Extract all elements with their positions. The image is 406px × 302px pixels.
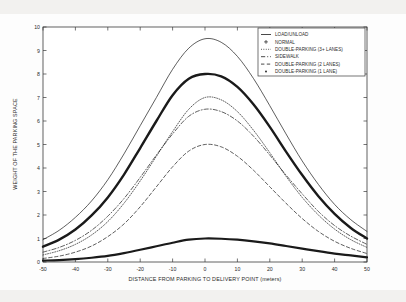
x-tick-label: -20 [136, 266, 144, 272]
chart-legend: LOAD/UNLOADNORMALDOUBLE-PARKING (3+ LANE… [258, 28, 365, 76]
legend-label: DOUBLE-PARKING (2 LANES) [275, 62, 341, 67]
y-axis-tick-labels: 012345678910 [34, 24, 40, 265]
y-tick-label: 5 [37, 142, 40, 148]
x-tick-label: 10 [235, 266, 241, 272]
y-tick-label: 8 [37, 71, 40, 77]
legend-label: LOAD/UNLOAD [275, 32, 309, 37]
x-tick-label: 40 [332, 266, 338, 272]
legend-label: SIDEWALK [275, 54, 300, 59]
figure-canvas: -50-40-30-20-1001020304050 012345678910 … [0, 0, 406, 302]
y-tick-label: 7 [37, 95, 40, 101]
y-axis-title: WEIGHT OF THE PARKING SPACE [12, 98, 18, 190]
y-tick-label: 1 [37, 236, 40, 242]
x-tick-label: -10 [169, 266, 177, 272]
y-tick-label: 4 [37, 165, 40, 171]
x-axis-tick-labels: -50-40-30-20-1001020304050 [39, 266, 370, 272]
y-tick-label: 10 [34, 24, 40, 30]
y-tick-label: 0 [37, 259, 40, 265]
dot-icon [265, 71, 267, 73]
legend-label: NORMAL [275, 40, 295, 45]
legend-item[interactable]: DOUBLE-PARKING (1 LANE) [265, 69, 337, 74]
x-tick-label: 30 [299, 266, 305, 272]
x-tick-label: 50 [364, 266, 370, 272]
x-tick-label: -30 [104, 266, 112, 272]
line-chart: -50-40-30-20-1001020304050 012345678910 … [0, 0, 406, 302]
x-tick-label: -50 [39, 266, 47, 272]
x-tick-label: -40 [72, 266, 80, 272]
y-tick-label: 9 [37, 48, 40, 54]
x-tick-label: 0 [204, 266, 207, 272]
legend-label: DOUBLE-PARKING (1 LANE) [275, 69, 337, 74]
y-tick-label: 3 [37, 189, 40, 195]
legend-label: DOUBLE-PARKING (3+ LANES) [275, 47, 343, 52]
y-tick-label: 2 [37, 212, 40, 218]
y-tick-label: 6 [37, 118, 40, 124]
x-axis-title: DISTANCE FROM PARKING TO DELIVERY POINT … [129, 276, 282, 282]
x-tick-label: 20 [267, 266, 273, 272]
